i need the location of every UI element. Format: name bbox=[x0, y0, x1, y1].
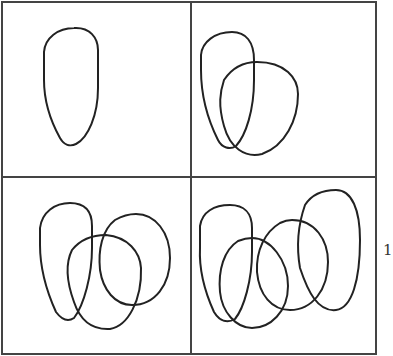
loop-1 bbox=[201, 32, 254, 148]
loop-2 bbox=[68, 235, 141, 329]
loop-1 bbox=[44, 28, 98, 145]
cut-off-margin-label: 1 bbox=[383, 243, 393, 258]
loop-4 bbox=[298, 190, 360, 310]
loop-2 bbox=[220, 62, 298, 155]
panel-top-left bbox=[44, 28, 98, 145]
panel-bottom-right bbox=[200, 190, 360, 328]
loop-3 bbox=[257, 220, 328, 310]
panel-bottom-left bbox=[40, 203, 170, 329]
loop-3 bbox=[100, 214, 170, 305]
loop-1 bbox=[40, 203, 92, 320]
grid-frame bbox=[2, 2, 376, 354]
panel-top-right bbox=[201, 32, 298, 155]
loop-2 bbox=[220, 238, 288, 328]
loop-1 bbox=[200, 205, 252, 321]
